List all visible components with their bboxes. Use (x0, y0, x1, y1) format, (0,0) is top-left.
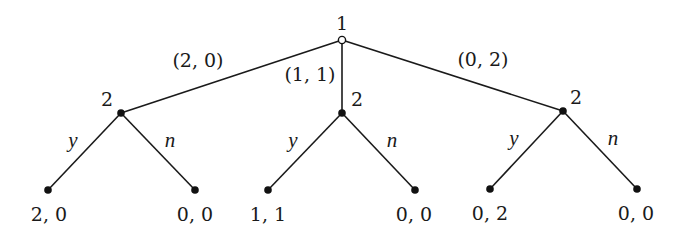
leaf-node-3 (264, 186, 272, 194)
p2-middle-player-label: 2 (351, 90, 363, 109)
payoff-label-6: 0, 0 (618, 204, 654, 223)
game-tree-graphics (0, 0, 683, 241)
action-label-right-y: y (509, 128, 518, 149)
edge-label-middle-offer: (1, 1) (284, 65, 335, 84)
edge-root-to-right (342, 40, 563, 111)
edge-right-n (563, 111, 637, 189)
edge-right-y (490, 111, 563, 189)
edge-left-n (121, 113, 195, 190)
action-label-left-y: y (68, 130, 77, 151)
p2-node-middle (338, 109, 346, 117)
action-label-middle-n: n (387, 130, 398, 151)
p2-left-player-label: 2 (101, 90, 113, 109)
payoff-label-3: 1, 1 (250, 205, 286, 224)
action-label-middle-y: y (288, 130, 297, 151)
payoff-label-5: 0, 2 (472, 204, 508, 223)
edge-middle-y (268, 113, 342, 190)
p2-right-player-label: 2 (570, 88, 582, 107)
action-label-right-n: n (608, 128, 619, 149)
edge-label-right-offer: (0, 2) (457, 50, 508, 69)
p2-node-left (117, 109, 125, 117)
edge-left-y (48, 113, 121, 190)
payoff-label-2: 0, 0 (177, 205, 213, 224)
payoff-label-1: 2, 0 (31, 205, 67, 224)
p2-node-right (559, 107, 567, 115)
leaf-node-5 (486, 185, 494, 193)
action-label-left-n: n (165, 130, 176, 151)
leaf-node-4 (411, 186, 419, 194)
root-node (338, 36, 345, 43)
payoff-label-4: 0, 0 (396, 205, 432, 224)
leaf-node-1 (44, 186, 52, 194)
edge-label-left-offer: (2, 0) (172, 51, 223, 70)
leaf-node-2 (191, 186, 199, 194)
edge-middle-n (342, 113, 415, 190)
game-tree-diagram: 1 2 2 2 (2, 0) (1, 1) (0, 2) y n y n y n… (0, 0, 683, 241)
leaf-node-6 (633, 185, 641, 193)
root-player-label: 1 (336, 14, 348, 33)
